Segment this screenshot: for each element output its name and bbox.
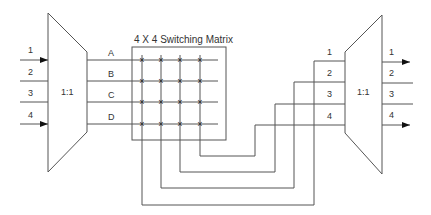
row-label-b: B xyxy=(108,69,114,79)
left-input-label-2: 2 xyxy=(28,67,33,77)
right-output-label-2: 2 xyxy=(389,68,394,78)
right-mux-label: 1:1 xyxy=(357,87,370,97)
svg-text:×: × xyxy=(139,97,144,107)
left-input-label-4: 4 xyxy=(28,110,33,120)
column-route-2 xyxy=(161,55,345,188)
svg-text:×: × xyxy=(139,55,144,65)
left-input-label-1: 1 xyxy=(28,45,33,55)
column-route-4 xyxy=(200,55,345,156)
right-output-label-1: 1 xyxy=(389,47,394,57)
left-mux-label: 1:1 xyxy=(61,87,74,97)
left-input-label-3: 3 xyxy=(28,88,33,98)
svg-text:×: × xyxy=(177,97,182,107)
switching-diagram: 1:1 1 2 3 4 A B C D 4 X 4 Switching Matr… xyxy=(0,0,431,215)
svg-text:×: × xyxy=(158,119,163,129)
right-output-label-4: 4 xyxy=(389,110,394,120)
crosspoints: ×××× ×××× ×××× ×××× xyxy=(139,55,202,129)
row-label-d: D xyxy=(108,112,115,122)
right-input-label-2: 2 xyxy=(327,68,332,78)
svg-text:×: × xyxy=(139,119,144,129)
column-route-1 xyxy=(142,55,345,205)
right-input-label-1: 1 xyxy=(327,47,332,57)
svg-text:×: × xyxy=(158,55,163,65)
row-label-c: C xyxy=(108,90,115,100)
column-route-3 xyxy=(180,55,345,172)
svg-text:×: × xyxy=(158,97,163,107)
right-output-label-3: 3 xyxy=(389,89,394,99)
svg-text:×: × xyxy=(197,55,202,65)
svg-text:×: × xyxy=(158,76,163,86)
right-input-label-3: 3 xyxy=(327,89,332,99)
right-input-label-4: 4 xyxy=(327,111,332,121)
svg-text:×: × xyxy=(197,119,202,129)
svg-text:×: × xyxy=(177,76,182,86)
matrix-title: 4 X 4 Switching Matrix xyxy=(134,34,233,45)
row-label-a: A xyxy=(108,48,114,58)
svg-text:×: × xyxy=(197,76,202,86)
svg-text:×: × xyxy=(139,76,144,86)
svg-text:×: × xyxy=(177,55,182,65)
svg-text:×: × xyxy=(177,119,182,129)
svg-text:×: × xyxy=(197,97,202,107)
